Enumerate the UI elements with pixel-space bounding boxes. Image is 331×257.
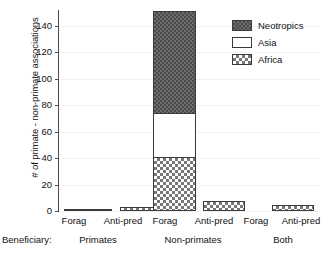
x-tick-label-both-antipred: Anti-pred (272, 215, 330, 226)
legend-item-neotropics: Neotropics (232, 18, 303, 33)
y-tick-label-20: 20 (41, 179, 52, 190)
legend-swatch-neotropics-icon (232, 20, 252, 31)
y-tick-label-60: 60 (41, 126, 52, 137)
legend: Neotropics Asia Africa (232, 18, 303, 69)
y-tick-60: 60 (24, 132, 58, 133)
y-tick-mark-80 (55, 105, 58, 106)
beneficiary-axis-label: Beneficiary: (2, 234, 52, 245)
y-tick-120: 120 (24, 52, 58, 53)
legend-item-asia: Asia (232, 35, 303, 50)
y-tick-mark-140 (55, 26, 58, 27)
y-tick-mark-100 (55, 79, 58, 80)
legend-label-asia: Asia (258, 37, 276, 48)
y-tick-label-100: 100 (36, 73, 52, 84)
bar-segment-asia (153, 113, 196, 157)
bar-segment-neotropics (64, 209, 112, 211)
legend-swatch-africa-icon (232, 54, 252, 65)
group-label-primates: Primates (58, 234, 138, 245)
y-tick-140: 140 (24, 26, 58, 27)
bar-segment-africa (272, 205, 314, 211)
chart-figure: # of primate - non-primate associations … (0, 0, 331, 257)
legend-swatch-asia-icon (232, 37, 252, 48)
bar-segment-africa (153, 157, 196, 211)
bar-nonprimates-antipred (203, 201, 245, 211)
legend-label-neotropics: Neotropics (258, 20, 303, 31)
x-tick-label-primates-forag: Forag (52, 215, 96, 226)
y-tick-0: 0 (24, 211, 58, 212)
y-tick-40: 40 (24, 158, 58, 159)
y-tick-label-40: 40 (41, 152, 52, 163)
bar-segment-neotropics (153, 11, 196, 113)
bar-segment-africa (203, 201, 245, 211)
y-tick-mark-20 (55, 185, 58, 186)
bar-primates-forag (64, 209, 112, 211)
gridline-0 (59, 211, 320, 212)
legend-item-africa: Africa (232, 52, 303, 67)
group-label-both: Both (248, 234, 318, 245)
bar-both-antipred (272, 205, 314, 211)
y-tick-mark-0 (55, 211, 58, 212)
y-tick-100: 100 (24, 79, 58, 80)
y-tick-mark-120 (55, 52, 58, 53)
y-tick-mark-60 (55, 132, 58, 133)
x-tick-label-nonprimates-forag: Forag (143, 215, 187, 226)
y-tick-label-80: 80 (41, 99, 52, 110)
bar-nonprimates-forag (153, 11, 196, 211)
y-tick-80: 80 (24, 105, 58, 106)
group-label-nonprimates: Non-primates (143, 234, 243, 245)
y-tick-20: 20 (24, 185, 58, 186)
y-tick-label-140: 140 (36, 20, 52, 31)
y-tick-mark-40 (55, 158, 58, 159)
y-tick-label-120: 120 (36, 46, 52, 57)
legend-label-africa: Africa (258, 54, 282, 65)
y-axis-line (58, 10, 59, 212)
